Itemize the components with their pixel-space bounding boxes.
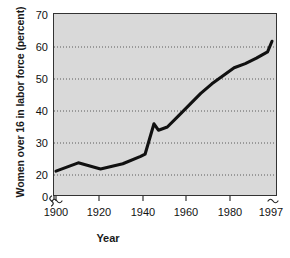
x-axis-break-right-icon [268, 199, 278, 203]
axis-break-marks [50, 196, 278, 206]
chart-plot-area [0, 0, 290, 258]
x-axis-ticks [56, 196, 230, 201]
figure-container: Women over 16 in labor force (percent) 7… [0, 0, 290, 258]
plot-background [54, 14, 277, 196]
